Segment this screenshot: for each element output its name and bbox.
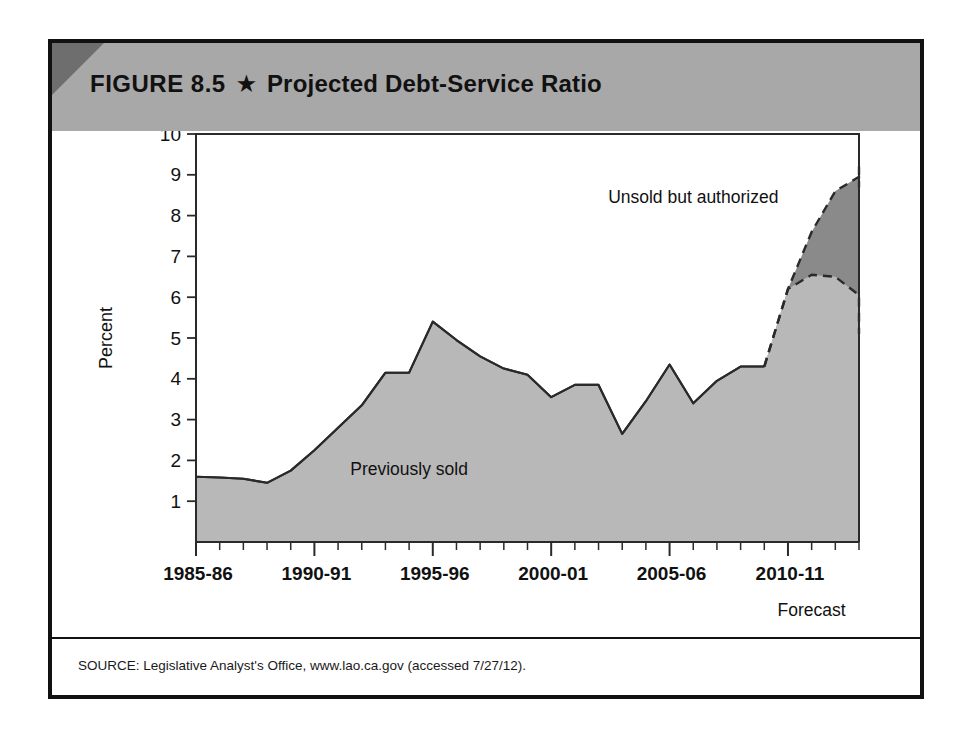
y-axis-title: Percent: [96, 307, 116, 369]
y-axis-tick-label: 3: [170, 409, 181, 430]
x-axis-tick-label: 2005-06: [637, 563, 707, 584]
figure-title: Projected Debt-Service Ratio: [267, 70, 602, 97]
page-title: FIGURE 8.5★Projected Debt-Service Ratio: [90, 70, 602, 98]
y-axis-tick-label: 9: [170, 164, 181, 185]
x-axis-tick-label: 1990-91: [282, 563, 352, 584]
figure-number: FIGURE 8.5: [90, 70, 226, 97]
y-axis-tick-label: 10: [160, 131, 181, 145]
source-divider: [52, 637, 920, 639]
debt-service-ratio-area-chart: 12345678910Percent1985-861990-911995-962…: [52, 131, 920, 641]
x-axis-tick-label: 1995-96: [400, 563, 470, 584]
y-axis-tick-label: 4: [170, 368, 181, 389]
chart-area: 12345678910Percent1985-861990-911995-962…: [52, 131, 920, 641]
y-axis-tick-label: 5: [170, 328, 181, 349]
forecast-annotation: Forecast: [778, 600, 846, 620]
figure-title-banner: FIGURE 8.5★Projected Debt-Service Ratio: [52, 43, 920, 131]
y-axis-tick-label: 1: [170, 491, 181, 512]
x-axis-tick-label: 1985-86: [163, 563, 233, 584]
series-annotation: Unsold but authorized: [608, 187, 778, 207]
x-axis-tick-label: 2000-01: [518, 563, 588, 584]
x-axis-tick-label: 2010-11: [756, 563, 825, 584]
y-axis-tick-label: 2: [170, 450, 181, 471]
y-axis-tick-label: 6: [170, 287, 181, 308]
series-annotation: Previously sold: [350, 459, 468, 479]
y-axis-tick-label: 7: [170, 246, 181, 267]
y-axis-tick-label: 8: [170, 205, 181, 226]
figure-container: FIGURE 8.5★Projected Debt-Service Ratio …: [48, 39, 924, 699]
star-icon: ★: [237, 72, 256, 96]
source-note: SOURCE: Legislative Analyst's Office, ww…: [78, 658, 526, 673]
